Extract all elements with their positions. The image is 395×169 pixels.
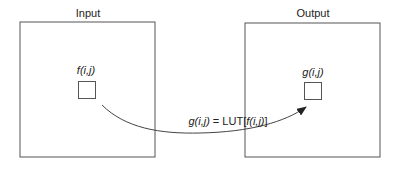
input-pixel-label: f(i,j) <box>77 64 96 76</box>
lut-diagram: Input f(i,j) Output g(i,j) g(i,j) = LUT[… <box>0 0 395 169</box>
input-pixel <box>79 82 96 99</box>
mapping-equation: g(i,j) = LUT[f(i,j)] <box>188 115 267 127</box>
input-image-frame <box>20 22 155 157</box>
equation-arg: f(i,j) <box>246 115 265 127</box>
equation-lhs: g(i,j) <box>188 115 210 127</box>
output-pixel-label: g(i,j) <box>302 66 324 78</box>
equation-close: ] <box>265 115 268 127</box>
output-image-frame <box>245 23 380 157</box>
input-title: Input <box>76 7 100 19</box>
output-pixel <box>305 83 322 100</box>
equation-eq: = LUT[ <box>210 115 246 127</box>
output-title: Output <box>296 7 329 19</box>
